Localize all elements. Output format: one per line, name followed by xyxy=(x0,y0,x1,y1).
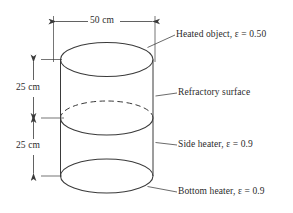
mid-surface-label: Refractory surface xyxy=(178,88,250,98)
diameter-dimension-label: 50 cm xyxy=(90,16,114,26)
leader-line-bottom-surface xyxy=(148,187,178,193)
cylinder-enclosure-figure: 50 cm 25 cm 25 cm Heated object, ε = 0.5… xyxy=(0,0,293,213)
bottom-rim-ellipse xyxy=(61,159,154,193)
bottom-surface-label: Bottom heater, ε = 0.9 xyxy=(178,187,265,197)
leader-line-top-surface xyxy=(148,35,176,48)
upper-height-dimension-label: 25 cm xyxy=(16,83,40,93)
middle-rim-back-dashed xyxy=(61,101,154,118)
top-surface-label: Heated object, ε = 0.50 xyxy=(176,30,266,40)
leader-line-side-surface xyxy=(156,143,178,146)
middle-rim-front-solid xyxy=(61,118,154,135)
side-surface-label: Side heater, ε = 0.9 xyxy=(178,140,253,150)
leader-line-mid-surface xyxy=(156,93,178,96)
top-rim-ellipse xyxy=(61,43,154,77)
lower-height-dimension-label: 25 cm xyxy=(16,141,40,151)
